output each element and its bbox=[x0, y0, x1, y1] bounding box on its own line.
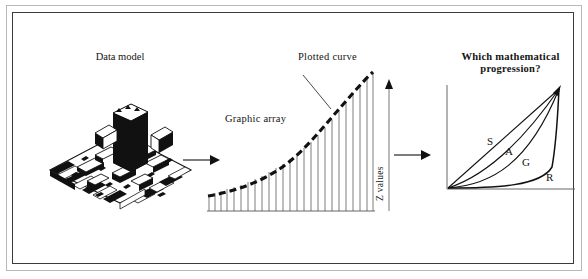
graphic-array-chart bbox=[203, 71, 408, 223]
z-values-axis bbox=[385, 79, 393, 211]
inner-figure-border: Data model bbox=[12, 12, 574, 264]
curve-label-A: A bbox=[505, 145, 513, 157]
panel-progression: Which mathematical progression? S bbox=[433, 51, 588, 231]
curve-label-S: S bbox=[487, 135, 493, 147]
plotted-curve-path bbox=[208, 72, 373, 196]
progression-chart bbox=[437, 81, 587, 206]
curve-label-G: G bbox=[522, 156, 530, 168]
curve-S bbox=[448, 89, 559, 188]
data-model-title: Data model bbox=[35, 51, 205, 62]
progression-title-line2: progression? bbox=[480, 63, 540, 74]
isometric-terrain-model-graphic bbox=[35, 75, 205, 225]
curve-label-R: R bbox=[546, 171, 553, 183]
progression-title-line1: Which mathematical bbox=[461, 51, 559, 62]
convergence-arrowhead bbox=[553, 85, 561, 96]
arrow-array-to-progression bbox=[394, 148, 432, 162]
plotted-curve-leader-line bbox=[303, 75, 331, 109]
panel-graphic-array: Plotted curve Graphic array Z values bbox=[203, 51, 408, 231]
figure-root: Data model bbox=[0, 0, 588, 279]
panel-data-model: Data model bbox=[35, 51, 205, 231]
plotted-curve-label: Plotted curve bbox=[298, 51, 357, 62]
